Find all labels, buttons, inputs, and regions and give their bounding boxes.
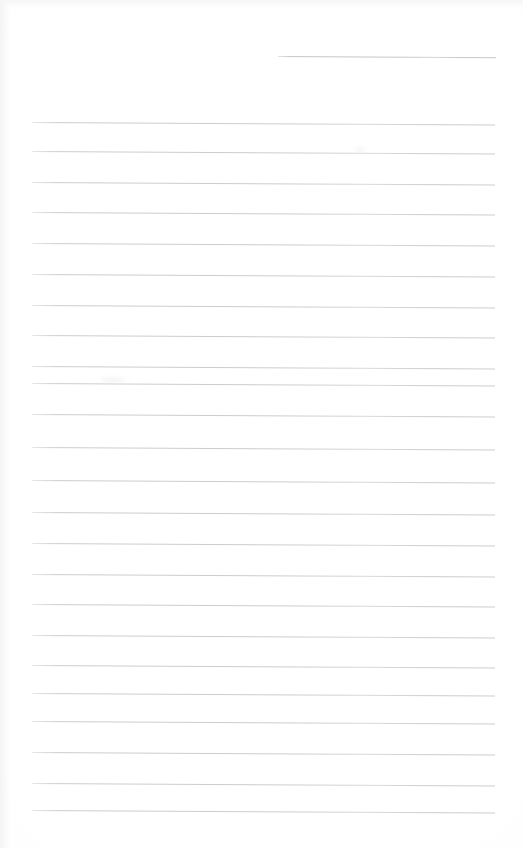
ruled-line (32, 665, 495, 669)
notepad-page (0, 0, 523, 848)
ruled-line (32, 810, 495, 814)
ruled-line (32, 335, 495, 339)
ruled-line (32, 512, 495, 516)
ruled-line (32, 182, 495, 186)
ruled-line (32, 783, 495, 787)
ruled-line (32, 693, 495, 697)
ruled-line (32, 151, 495, 155)
ruled-line (32, 447, 495, 451)
ruled-line (32, 122, 495, 126)
ruled-lines-layer (0, 0, 523, 848)
ruled-line (32, 366, 495, 370)
ruled-line (278, 56, 496, 58)
ruled-line (32, 635, 495, 639)
ruled-line (32, 212, 495, 216)
ruled-line (32, 480, 495, 484)
ruled-line (32, 752, 495, 756)
ruled-line (32, 543, 495, 547)
ruled-line (32, 414, 495, 418)
ruled-line (32, 604, 495, 608)
ruled-line (32, 721, 495, 725)
ruled-line (32, 574, 495, 578)
ruled-line (32, 274, 495, 278)
ruled-line (32, 243, 495, 247)
ruled-line (32, 383, 495, 387)
ruled-line (32, 305, 495, 309)
